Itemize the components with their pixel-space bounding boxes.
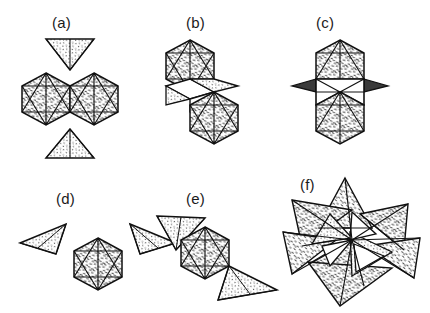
star-cluster-f — [283, 178, 420, 306]
icosahedron-right-a — [70, 73, 118, 125]
panel-c-graphic — [292, 40, 388, 144]
panel-b-graphic — [166, 40, 238, 144]
panel-label-f: (f) — [300, 176, 315, 193]
icosahedron-left-a — [22, 73, 70, 125]
tetrahedron-bottom-a — [46, 129, 94, 158]
tetrahedron-wing-left-d — [20, 224, 66, 254]
spike-right-c — [364, 79, 388, 92]
panel-label-d: (d) — [56, 190, 75, 207]
polyhedra-figure: (a) (b) (c) (d) (e) (f) — [0, 0, 430, 313]
panel-e-graphic — [157, 216, 277, 300]
panel-label-c: (c) — [316, 14, 334, 31]
panel-a-graphic — [22, 39, 118, 158]
panel-f-graphic — [283, 178, 420, 306]
figure-canvas — [0, 0, 430, 313]
icosahedron-center-d — [74, 238, 122, 290]
tetrahedron-top-a — [46, 39, 94, 70]
spike-left-c — [292, 79, 316, 92]
panel-label-e: (e) — [186, 190, 205, 207]
panel-d-graphic — [20, 224, 176, 290]
tetrahedron-lower-right-e — [218, 266, 277, 300]
panel-label-b: (b) — [186, 14, 205, 31]
panel-label-a: (a) — [52, 14, 71, 31]
